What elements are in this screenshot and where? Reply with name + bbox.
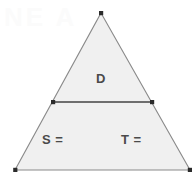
geometry-figure-canvas: NE A D S = T = [0, 0, 195, 186]
point-midline-left-dot [51, 100, 55, 104]
point-apex-dot [99, 11, 103, 15]
point-bottom-right-dot [188, 168, 192, 172]
region-label-t: T = [121, 133, 142, 146]
point-midline-right-dot [150, 100, 154, 104]
region-label-s: S = [42, 133, 63, 146]
geometry-figure-svg [0, 0, 195, 186]
region-label-d: D [96, 72, 106, 85]
point-bottom-left-dot [13, 168, 17, 172]
